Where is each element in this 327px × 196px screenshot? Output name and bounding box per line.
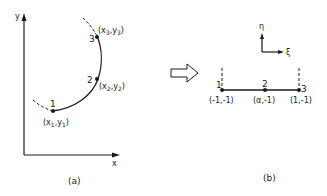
node-1-coord: (x1,y1)	[43, 118, 69, 128]
isoparametric-mapping-diagram: y x 1 2 3 (x1,y1) (x2,y2) (x3,y3) (a) η …	[0, 0, 327, 196]
eta-axis-arrow-icon	[260, 33, 264, 39]
figure-b: η ξ 1 2 3 (-1,-1) (α,-1) (1,-1) (b)	[209, 22, 312, 183]
curved-element	[53, 36, 101, 111]
node-2-label: 2	[262, 79, 268, 89]
transform-arrow	[171, 64, 198, 82]
node-1-point	[51, 109, 55, 113]
xi-label: ξ	[286, 48, 290, 57]
hollow-right-arrow-icon	[171, 64, 198, 82]
node-3-coord: (1,-1)	[290, 96, 312, 105]
node-3-coord: (x3,y3)	[98, 26, 124, 36]
figure-a: y x 1 2 3 (x1,y1) (x2,y2) (x3,y3) (a)	[15, 12, 125, 186]
node-2-coord: (x2,y2)	[99, 82, 125, 92]
node-2-label: 2	[87, 75, 93, 85]
x-axis-label: x	[112, 159, 117, 168]
node-3-label: 3	[301, 84, 307, 94]
node-2-point	[95, 77, 99, 81]
node-1-coord: (-1,-1)	[209, 96, 234, 105]
node-1-label: 1	[216, 80, 222, 90]
xi-axis-arrow-icon	[278, 50, 284, 54]
node-3-label: 3	[89, 34, 95, 44]
node-1-label: 1	[50, 99, 56, 109]
figure-a-caption: (a)	[68, 176, 81, 186]
y-axis-label: y	[15, 12, 20, 21]
node-2-coord: (α,-1)	[253, 96, 275, 105]
x-axis-arrow-icon	[112, 153, 120, 158]
y-axis-arrow-icon	[22, 13, 27, 21]
node-3-point	[95, 35, 99, 39]
eta-label: η	[259, 22, 264, 31]
figure-b-caption: (b)	[263, 173, 276, 183]
